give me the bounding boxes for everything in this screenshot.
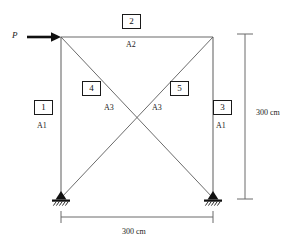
member-box-3[interactable]: 3 [213, 100, 232, 115]
support-left-triangle [56, 191, 67, 200]
member-box-2[interactable]: 2 [122, 14, 141, 29]
dimension-label-horizontal: 300 cm [122, 228, 146, 236]
truss-members [61, 37, 213, 198]
support-left-base [52, 200, 70, 202]
member-area-label-A1-left: A1 [37, 122, 47, 130]
member-box-4[interactable]: 4 [82, 81, 101, 96]
support-left-pinned [52, 191, 70, 206]
dimension-horizontal [61, 211, 213, 223]
load-label-P: P [12, 31, 18, 40]
support-right-hatching [205, 202, 220, 206]
support-left-hatching [53, 202, 68, 206]
support-right-base [204, 200, 222, 202]
member-area-label-A2: A2 [126, 41, 136, 49]
member-area-label-A3-left: A3 [104, 104, 114, 112]
member-box-1[interactable]: 1 [34, 100, 53, 115]
load-arrow-P [27, 32, 61, 42]
dimension-vertical [237, 34, 253, 199]
support-right-pinned [204, 191, 222, 206]
member-box-5[interactable]: 5 [170, 81, 189, 96]
dimension-label-vertical: 300 cm [256, 109, 280, 117]
truss-diagram-canvas: P 2 A2 1 A1 3 A1 4 A3 5 A3 300 cm 300 cm [0, 0, 291, 249]
member-area-label-A1-right: A1 [216, 122, 226, 130]
load-arrow-head [51, 32, 61, 42]
support-right-triangle [208, 191, 219, 200]
member-area-label-A3-right: A3 [152, 104, 162, 112]
